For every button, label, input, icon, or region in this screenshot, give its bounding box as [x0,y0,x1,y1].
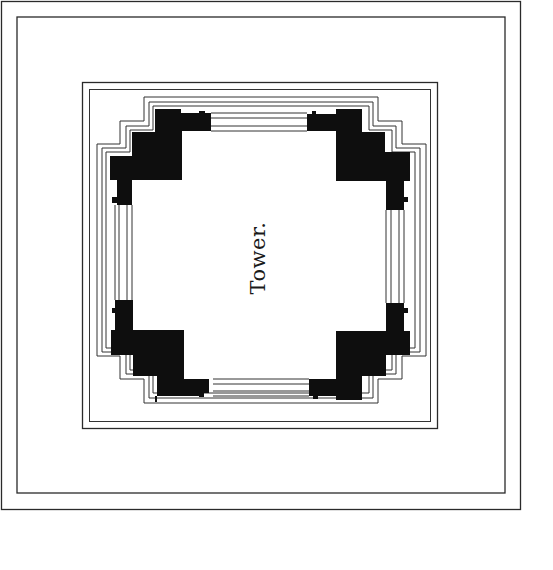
tower-label: Tower. [246,222,270,295]
pier-top-left [110,109,211,205]
plan-drawing [0,0,553,570]
pier-top-right [307,109,410,210]
pier-bottom-right [309,303,410,400]
pier-bottom-left [111,300,209,402]
